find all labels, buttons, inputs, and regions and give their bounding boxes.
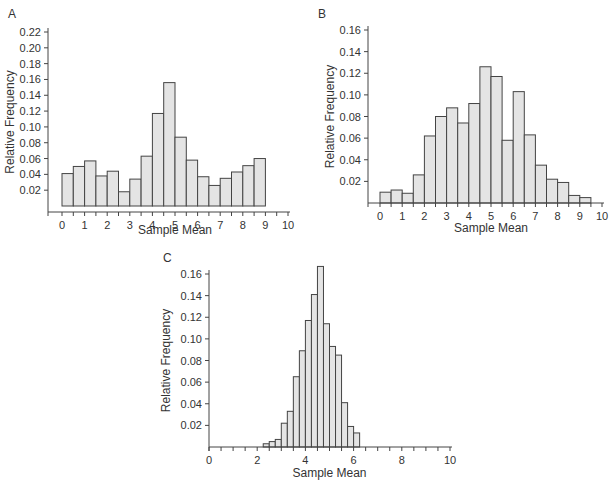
- y-tick-label: 0.08: [181, 355, 202, 367]
- histogram-bar: [119, 192, 130, 206]
- x-tick-label: 10: [282, 219, 294, 231]
- y-tick-label: 0.12: [340, 67, 361, 79]
- y-tick-label: 0.06: [340, 132, 361, 144]
- x-tick-label: 4: [302, 454, 308, 466]
- y-axis-title: Relative Frequency: [323, 65, 337, 168]
- panel-label: B: [318, 7, 326, 21]
- histogram-bar: [336, 355, 342, 447]
- histogram-bar: [198, 177, 209, 206]
- y-tick-label: 0.10: [20, 121, 41, 133]
- x-tick-label: 8: [240, 219, 246, 231]
- histogram-bar: [186, 160, 197, 206]
- histogram-bar: [558, 182, 569, 203]
- x-tick-label: 8: [399, 454, 405, 466]
- x-tick-label: 2: [104, 219, 110, 231]
- histogram-bar: [175, 137, 186, 206]
- histogram-bar: [458, 123, 469, 203]
- x-tick-label: 8: [555, 210, 561, 222]
- histogram-bar: [436, 117, 447, 204]
- y-tick-label: 0.12: [181, 311, 202, 323]
- x-tick-label: 9: [262, 219, 268, 231]
- y-tick-label: 0.14: [20, 89, 41, 101]
- histogram-bar: [491, 76, 502, 203]
- histogram-bar: [402, 193, 413, 203]
- histogram-bar: [447, 108, 458, 203]
- x-axis-title: Sample Mean: [454, 221, 528, 235]
- histogram-bar: [85, 161, 96, 206]
- histogram-bar: [209, 185, 220, 206]
- histogram-bar: [107, 171, 118, 206]
- y-tick-label: 0.02: [20, 184, 41, 196]
- histogram-bar: [73, 166, 84, 206]
- y-axis-title: Relative Frequency: [159, 309, 173, 412]
- histogram-bar: [299, 351, 305, 447]
- y-tick-label: 0.08: [340, 111, 361, 123]
- histogram-bar: [569, 195, 580, 203]
- histogram-bar: [323, 324, 329, 447]
- histogram-bar: [342, 403, 348, 447]
- histogram-panel-b: B0.020.040.060.080.100.120.140.160123456…: [318, 7, 608, 235]
- histogram-bar: [424, 136, 435, 203]
- x-tick-label: 3: [127, 219, 133, 231]
- histogram-bar: [232, 172, 243, 206]
- y-tick-label: 0.04: [20, 168, 41, 180]
- panel-label: A: [8, 7, 16, 21]
- histogram-bar: [281, 423, 287, 447]
- histogram-bar: [348, 426, 354, 447]
- x-tick-label: 0: [59, 219, 65, 231]
- x-tick-label: 7: [217, 219, 223, 231]
- x-tick-label: 1: [399, 210, 405, 222]
- histogram-bar: [130, 179, 141, 206]
- y-tick-label: 0.14: [181, 290, 202, 302]
- histogram-bar: [62, 174, 73, 206]
- histogram-bar: [513, 92, 524, 203]
- y-tick-label: 0.02: [340, 175, 361, 187]
- x-tick-label: 0: [377, 210, 383, 222]
- histogram-bar: [330, 346, 336, 447]
- histogram-bar: [535, 165, 546, 203]
- histogram-bar: [354, 433, 360, 447]
- x-tick-label: 1: [82, 219, 88, 231]
- histogram-figure: A0.020.040.060.080.100.120.140.160.180.2…: [0, 0, 615, 483]
- x-tick-label: 3: [444, 210, 450, 222]
- histogram-bar: [391, 190, 402, 203]
- histogram-bar: [317, 266, 323, 447]
- y-tick-label: 0.12: [20, 105, 41, 117]
- histogram-bar: [502, 140, 513, 203]
- histogram-bar: [164, 83, 175, 206]
- histogram-bar: [311, 295, 317, 447]
- histogram-bar: [413, 175, 424, 203]
- histogram-bar: [524, 135, 535, 203]
- histogram-bar: [580, 198, 591, 203]
- histogram-bar: [254, 159, 265, 206]
- x-tick-label: 2: [421, 210, 427, 222]
- histogram-bar: [269, 442, 275, 447]
- histogram-bar: [96, 176, 107, 206]
- y-axis-title: Relative Frequency: [3, 70, 17, 173]
- x-tick-label: 2: [254, 454, 260, 466]
- y-tick-label: 0.22: [20, 26, 41, 38]
- y-tick-label: 0.10: [181, 333, 202, 345]
- histogram-bar: [243, 166, 254, 206]
- histogram-bar: [141, 156, 152, 206]
- x-axis-title: Sample Mean: [138, 223, 212, 237]
- y-tick-label: 0.08: [20, 137, 41, 149]
- x-tick-label: 10: [444, 454, 456, 466]
- x-tick-label: 10: [596, 210, 608, 222]
- histogram-bar: [220, 178, 231, 206]
- y-tick-label: 0.04: [340, 154, 361, 166]
- histogram-bar: [480, 67, 491, 203]
- x-axis-title: Sample Mean: [292, 466, 366, 480]
- x-tick-label: 0: [206, 454, 212, 466]
- y-tick-label: 0.02: [181, 419, 202, 431]
- histogram-bar: [305, 320, 311, 447]
- y-tick-label: 0.06: [181, 376, 202, 388]
- y-tick-label: 0.14: [340, 46, 361, 58]
- y-tick-label: 0.20: [20, 42, 41, 54]
- x-tick-label: 9: [577, 210, 583, 222]
- y-tick-label: 0.16: [20, 73, 41, 85]
- histogram-panel-c: C0.020.040.060.080.100.120.140.160246810…: [159, 251, 456, 480]
- histogram-panel-a: A0.020.040.060.080.100.120.140.160.180.2…: [3, 7, 294, 237]
- histogram-bar: [469, 104, 480, 203]
- histogram-bar: [380, 192, 391, 203]
